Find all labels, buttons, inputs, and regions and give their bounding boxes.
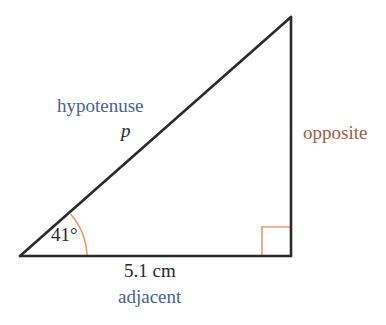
figure-background: [0, 0, 386, 325]
hypotenuse-label: hypotenuse: [57, 96, 144, 115]
angle-label: 41°: [51, 225, 78, 244]
adjacent-label: adjacent: [118, 287, 181, 306]
adjacent-measure-label: 5.1 cm: [124, 261, 176, 280]
right-triangle-figure: [0, 0, 386, 325]
opposite-label: opposite: [303, 123, 367, 142]
hypotenuse-variable-label: p: [121, 121, 131, 140]
